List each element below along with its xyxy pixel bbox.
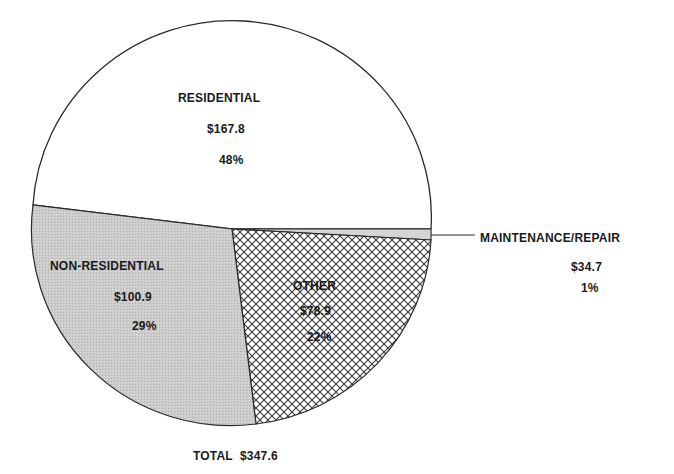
residential-name-label: RESIDENTIAL bbox=[178, 91, 260, 105]
non-residential-percent-label: 29% bbox=[132, 319, 157, 333]
other-percent-label: 22% bbox=[307, 330, 332, 344]
non-residential-value-label: $100.9 bbox=[114, 290, 152, 304]
residential-value-label: $167.8 bbox=[207, 122, 245, 136]
total-label: TOTAL $347.6 bbox=[193, 449, 278, 463]
non-residential-name-label: NON-RESIDENTIAL bbox=[50, 259, 164, 273]
residential-percent-label: 48% bbox=[219, 153, 244, 167]
maintenance-name-label: MAINTENANCE/REPAIR bbox=[480, 231, 620, 245]
total-value: $347.6 bbox=[240, 449, 278, 463]
slice-other bbox=[232, 229, 431, 424]
other-name-label: OTHER bbox=[293, 279, 336, 293]
slice-non-residential bbox=[31, 205, 256, 426]
other-value-label: $78.9 bbox=[300, 304, 331, 318]
maintenance-value-label: $34.7 bbox=[571, 260, 602, 274]
maintenance-percent-label: 1% bbox=[581, 281, 599, 295]
total-text: TOTAL bbox=[193, 449, 233, 463]
